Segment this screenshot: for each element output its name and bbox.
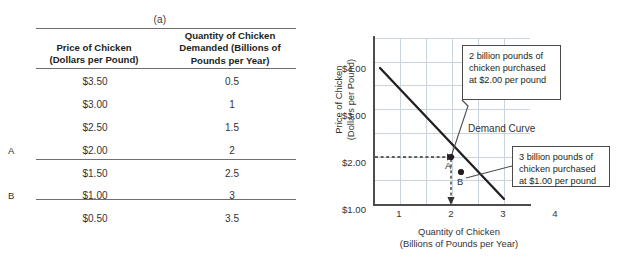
column-header-quantity-line2: Demanded (Billions of xyxy=(160,42,300,54)
table-rule-top xyxy=(36,28,296,29)
cell-qty-0: 0.5 xyxy=(172,76,292,87)
chart-y-axis-label: Price of Chicken (Dollars per Pound) xyxy=(333,45,356,155)
cell-qty-3: 2 xyxy=(172,145,292,156)
chart-ytick-3: $3.00 xyxy=(324,110,366,121)
row-marker-a: A xyxy=(8,145,22,156)
chart-y-axis-label-line2: (Dollars per Pound) xyxy=(345,45,357,155)
chart-ytick-2: $2.00 xyxy=(324,157,366,168)
column-header-price-line2: (Dollars per Pound) xyxy=(28,54,160,66)
cell-price-0: $3.50 xyxy=(40,76,150,87)
chart-x-axis xyxy=(373,204,531,206)
data-point-a-label: A xyxy=(445,160,451,171)
cell-price-1: $3.00 xyxy=(40,99,150,110)
panel-a-label: (a) xyxy=(100,14,220,25)
cell-price-2: $2.50 xyxy=(40,122,150,133)
data-point-b-label: B xyxy=(457,176,463,187)
annotation-callout-b: 3 billion pounds of chicken purchased at… xyxy=(512,146,610,187)
cell-qty-2: 1.5 xyxy=(172,122,292,133)
column-header-price-line1: Price of Chicken xyxy=(28,42,160,54)
chart-xtick-4: 4 xyxy=(545,208,565,219)
chart-ytick-1: $1.00 xyxy=(324,204,366,215)
cell-price-6: $0.50 xyxy=(40,213,150,224)
cell-qty-4: 2.5 xyxy=(172,168,292,179)
annotation-callout-b-line1: 3 billion pounds of xyxy=(519,151,603,163)
column-header-price: Price of Chicken (Dollars per Pound) xyxy=(28,42,160,67)
figure-root: (a) Price of Chicken (Dollars per Pound)… xyxy=(0,0,625,267)
cell-price-3: $2.00 xyxy=(40,145,150,156)
annotation-callout-a-line1: 2 billion pounds of xyxy=(469,50,554,62)
table-rule-a xyxy=(36,159,296,160)
chart-x-axis-label: Quantity of Chicken (Billions of Pounds … xyxy=(354,226,564,249)
chart-xtick-3: 3 xyxy=(493,208,513,219)
cell-price-4: $1.50 xyxy=(40,168,150,179)
annotation-callout-a: 2 billion pounds of chicken purchased at… xyxy=(462,45,561,100)
panel-a-table: (a) Price of Chicken (Dollars per Pound)… xyxy=(0,0,318,267)
column-header-quantity-line1: Quantity of Chicken xyxy=(160,30,300,42)
annotation-callout-a-line2: chicken purchased xyxy=(469,62,554,74)
annotation-callout-b-line2: chicken purchased xyxy=(519,163,603,175)
column-header-quantity: Quantity of Chicken Demanded (Billions o… xyxy=(160,30,300,67)
chart-y-axis-label-line1: Price of Chicken xyxy=(333,45,345,155)
chart-y-axis xyxy=(373,36,375,206)
column-header-quantity-line3: Pounds per Year) xyxy=(160,55,300,67)
panel-b-chart: (b) Price of Chicken (Dollars per Pound)… xyxy=(318,0,625,267)
cell-qty-6: 3.5 xyxy=(172,213,292,224)
annotation-callout-b-line3: at $1.00 per pound xyxy=(519,175,603,187)
chart-ytick-4: $4.00 xyxy=(324,63,366,74)
chart-xtick-2: 2 xyxy=(441,208,461,219)
chart-xtick-1: 1 xyxy=(389,208,409,219)
demand-curve-label: Demand Curve xyxy=(468,123,535,134)
table-rule-b xyxy=(36,199,296,200)
annotation-callout-a-line3: at $2.00 per pound xyxy=(469,74,554,86)
cell-qty-1: 1 xyxy=(172,99,292,110)
row-marker-b: B xyxy=(8,190,22,201)
chart-x-axis-label-line1: Quantity of Chicken xyxy=(354,226,564,238)
table-rule-header xyxy=(36,68,296,69)
chart-x-axis-label-line2: (Billions of Pounds per Year) xyxy=(354,238,564,250)
